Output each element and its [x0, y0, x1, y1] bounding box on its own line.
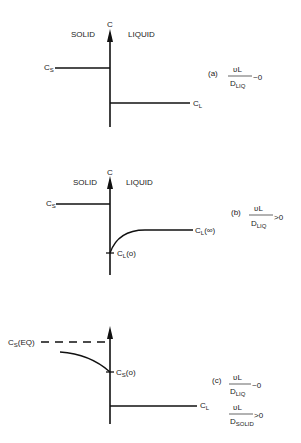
cs-interface-label: CS(o) [116, 368, 136, 378]
liquid-region-label: LIQUID [128, 30, 155, 39]
case-label: (c) [212, 376, 222, 385]
cl-label: CL [193, 99, 203, 109]
solid-concentration-curve [60, 352, 110, 372]
formula-numerator: ʋL [254, 204, 263, 213]
formula-numerator: ʋL [233, 403, 242, 412]
formula: ʋL DLIQ ~0 [228, 65, 263, 89]
formula-relation: >0 [254, 411, 264, 420]
solid-region-label: SOLID [73, 178, 97, 187]
cs-eq-label: CS(EQ) [8, 338, 35, 348]
formula-numerator: ʋL [233, 65, 242, 74]
formula-denominator: DSOLID [230, 417, 254, 427]
formula-solid: ʋL DSOLID >0 [229, 403, 264, 427]
formula-relation: >0 [274, 213, 284, 222]
axis-arrow-icon [107, 29, 113, 42]
panel-b: C SOLID LIQUID CS CL(∞) CL(o) (b) ʋL DLI… [46, 168, 284, 275]
cl-infinity-label: CL(∞) [195, 226, 215, 236]
diagram-canvas: C SOLID LIQUID CS CL (a) ʋL DLIQ ~0 C SO… [0, 0, 301, 443]
cs-label: CS [46, 199, 56, 209]
formula-numerator: ʋL [233, 373, 242, 382]
liquid-region-label: LIQUID [126, 178, 153, 187]
formula: ʋL DLIQ >0 [249, 204, 284, 229]
panel-c: CS(EQ) CS(o) CL (c) ʋL DLIQ ~0 ʋL DSOLID… [8, 326, 264, 427]
cs-label: CS [44, 63, 54, 73]
formula-denominator: DLIQ [230, 79, 246, 89]
axis-label: C [107, 168, 113, 177]
axis-arrow-icon [107, 326, 113, 339]
formula-relation: ~0 [252, 381, 262, 390]
formula-liquid: ʋL DLIQ ~0 [229, 373, 262, 397]
case-label: (a) [208, 69, 218, 78]
cl-label: CL [200, 401, 210, 411]
formula-denominator: DLIQ [230, 387, 246, 397]
axis-label: C [107, 20, 113, 29]
formula-relation: ~0 [253, 73, 263, 82]
case-label: (b) [231, 208, 241, 217]
panel-a: C SOLID LIQUID CS CL (a) ʋL DLIQ ~0 [44, 20, 263, 127]
solid-region-label: SOLID [71, 30, 95, 39]
cl-interface-label: CL(o) [117, 249, 136, 259]
axis-arrow-icon [107, 176, 113, 189]
formula-denominator: DLIQ [251, 219, 267, 229]
